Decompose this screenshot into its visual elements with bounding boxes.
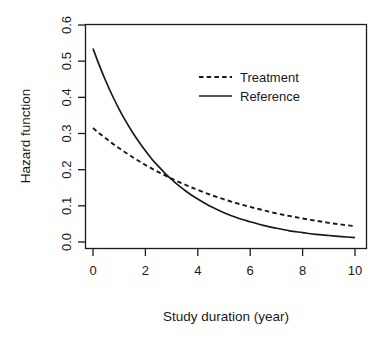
x-axis-title: Study duration (year) xyxy=(163,309,289,324)
x-tick-label: 6 xyxy=(247,263,254,278)
y-tick-label: 0.1 xyxy=(59,197,74,215)
y-axis-tick-labels: 0.00.10.20.30.40.50.6 xyxy=(59,16,74,251)
legend-label-treatment: Treatment xyxy=(240,70,299,85)
y-axis-ticks xyxy=(78,25,86,242)
plot-frame xyxy=(86,25,367,249)
series-line-treatment xyxy=(93,128,355,226)
y-tick-label: 0.3 xyxy=(59,124,74,142)
x-tick-label: 2 xyxy=(142,263,149,278)
y-tick-label: 0.0 xyxy=(59,233,74,251)
y-tick-label: 0.6 xyxy=(59,16,74,34)
y-tick-label: 0.5 xyxy=(59,52,74,70)
chart-canvas: 0.00.10.20.30.40.50.6 0246810 TreatmentR… xyxy=(0,0,389,346)
x-axis-tick-labels: 0246810 xyxy=(89,263,362,278)
x-tick-label: 10 xyxy=(348,263,362,278)
y-tick-label: 0.4 xyxy=(59,88,74,106)
x-tick-label: 8 xyxy=(299,263,306,278)
hazard-function-chart: 0.00.10.20.30.40.50.6 0246810 TreatmentR… xyxy=(0,0,389,346)
x-axis-ticks xyxy=(93,249,355,257)
y-axis-title: Hazard function xyxy=(18,89,33,184)
legend-label-reference: Reference xyxy=(240,89,300,104)
x-tick-label: 4 xyxy=(194,263,201,278)
x-tick-label: 0 xyxy=(89,263,96,278)
y-tick-label: 0.2 xyxy=(59,161,74,179)
chart-legend: TreatmentReference xyxy=(199,70,300,104)
